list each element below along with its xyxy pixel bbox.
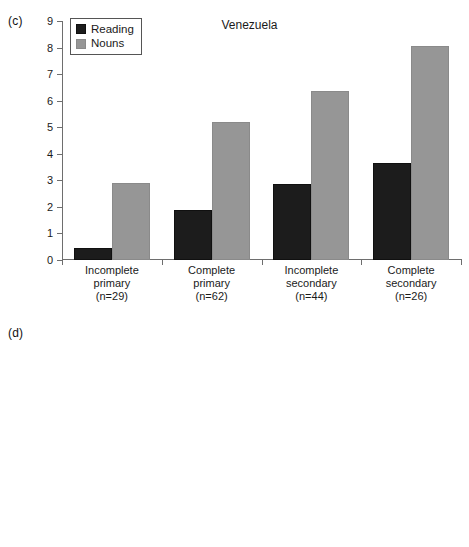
legend-item-reading: Reading	[76, 22, 134, 36]
x-axis-category-label-line: Complete	[162, 264, 262, 277]
legend-label-nouns: Nouns	[91, 36, 124, 50]
y-axis-tick-label: 3	[47, 175, 53, 186]
x-axis-category-label-line: (n=62)	[162, 290, 262, 303]
bar-reading	[273, 184, 311, 260]
x-axis-category-labels: Incompleteprimary(n=29)Completeprimary(n…	[62, 264, 461, 308]
y-axis-tick: 7	[57, 74, 62, 75]
x-axis-category-label-line: Incomplete	[62, 264, 162, 277]
bar-reading	[74, 248, 112, 260]
legend-item-nouns: Nouns	[76, 36, 134, 50]
legend-label-reading: Reading	[91, 22, 134, 36]
bar-nouns	[411, 46, 449, 260]
x-axis-category-label: Completeprimary(n=62)	[162, 264, 262, 303]
y-axis-line-c	[62, 21, 63, 260]
bar-reading	[174, 210, 212, 260]
x-axis-category-label-line: Complete	[361, 264, 461, 277]
x-axis-category-label-line: secondary	[262, 277, 362, 290]
x-axis-category-label: Completesecondary(n=26)	[361, 264, 461, 303]
bar-reading	[373, 163, 411, 260]
panel-venezuela: (c) Venezuela 0123456789 Incompleteprima…	[0, 0, 469, 310]
y-axis-tick-label: 6	[47, 95, 53, 106]
legend-swatch-nouns-icon	[76, 39, 86, 49]
y-axis-tick-label: 9	[47, 16, 53, 27]
x-axis-category-label-line: (n=29)	[62, 290, 162, 303]
y-axis-tick-label: 0	[47, 255, 53, 266]
y-axis-tick: 6	[57, 101, 62, 102]
y-axis-tick: 9	[57, 21, 62, 22]
y-axis-tick: 2	[57, 207, 62, 208]
x-axis-category-label-line: primary	[62, 277, 162, 290]
x-axis-category-label-line: Incomplete	[262, 264, 362, 277]
x-axis-category-label: Incompletesecondary(n=44)	[262, 264, 362, 303]
y-axis-tick: 3	[57, 180, 62, 181]
y-axis-tick: 8	[57, 48, 62, 49]
legend-venezuela: Reading Nouns	[70, 18, 142, 55]
x-axis-category-label-line: primary	[162, 277, 262, 290]
y-axis-tick-label: 5	[47, 122, 53, 133]
panel-letter-d: (d)	[8, 326, 23, 340]
bar-nouns	[311, 91, 349, 260]
y-axis-tick-label: 1	[47, 228, 53, 239]
plot-area-venezuela: 0123456789	[62, 21, 461, 260]
x-axis-category-label-line: secondary	[361, 277, 461, 290]
x-axis-category-label-line: (n=26)	[361, 290, 461, 303]
panel-mexico: (d) Mexico 0123456789 Reading Nouns	[0, 310, 469, 547]
y-axis-tick-label: 8	[47, 42, 53, 53]
y-axis-tick: 5	[57, 127, 62, 128]
x-axis-tick	[461, 260, 462, 265]
bar-nouns	[112, 183, 150, 260]
x-axis-category-label: Incompleteprimary(n=29)	[62, 264, 162, 303]
x-axis-category-label-line: (n=44)	[262, 290, 362, 303]
y-axis-tick-label: 4	[47, 148, 53, 159]
y-axis-tick: 4	[57, 154, 62, 155]
legend-swatch-reading-icon	[76, 24, 86, 34]
y-axis-tick-label: 2	[47, 201, 53, 212]
bar-nouns	[212, 122, 250, 260]
y-axis-tick-label: 7	[47, 69, 53, 80]
y-axis-tick: 1	[57, 233, 62, 234]
